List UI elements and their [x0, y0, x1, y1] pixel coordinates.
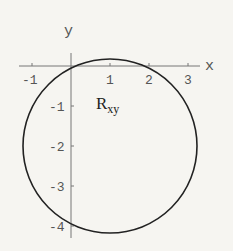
x-tick-label: 2	[145, 73, 153, 88]
x-tick-label: -1	[22, 73, 38, 88]
region-label: Rxy	[96, 94, 119, 116]
y-tick-label: -3	[49, 180, 65, 195]
x-axis-label: x	[205, 58, 214, 75]
region-label-subscript: xy	[107, 102, 119, 116]
diagram-canvas: x y -1 1 2 3 -1 -2 -3 -4 Rxy	[0, 0, 233, 251]
y-tick-label: -1	[49, 100, 65, 115]
y-tick-label: -2	[49, 140, 65, 155]
x-tick-label: 3	[184, 73, 192, 88]
x-tick-label: 1	[106, 73, 114, 88]
region-label-main: R	[96, 94, 108, 113]
y-tick-label: -4	[49, 220, 65, 235]
y-axis-label: y	[64, 23, 73, 40]
